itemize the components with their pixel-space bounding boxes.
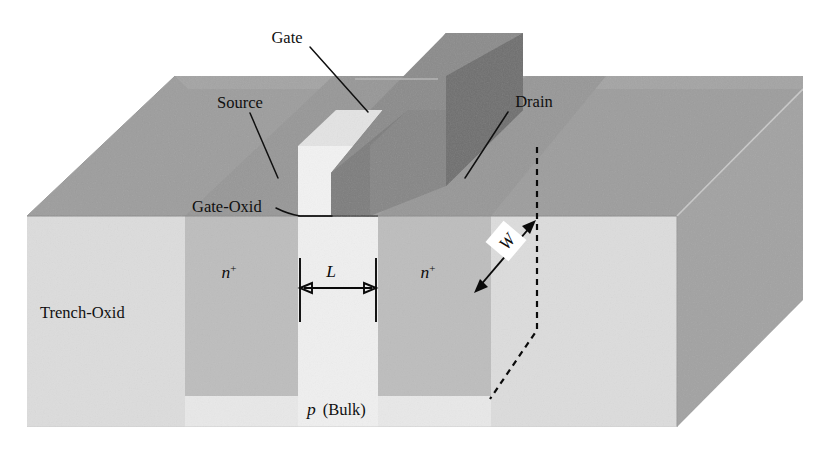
front-face-n-plus-source [185, 216, 298, 396]
bulk-text: (Bulk) [323, 400, 366, 419]
drain-label: Drain [515, 92, 553, 111]
mosfet-3d-diagram: L W Gate Source Drain Gate-Oxid T [0, 0, 830, 464]
source-label: Source [217, 93, 263, 112]
n-plus-drain-letter: n [421, 262, 430, 282]
mosfet-figure: L W Gate Source Drain Gate-Oxid T [0, 0, 830, 464]
device-body [27, 33, 803, 427]
n-plus-source-letter: n [222, 262, 231, 282]
length-label: L [325, 261, 336, 281]
bulk-symbol: p [305, 399, 316, 419]
front-face-n-plus-drain [378, 216, 491, 396]
n-plus-source-superscript: + [230, 262, 236, 274]
gate-label: Gate [271, 28, 302, 47]
trench-oxide-label: Trench-Oxid [40, 303, 125, 322]
front-face-channel-column-overlay [298, 216, 378, 427]
n-plus-drain-superscript: + [429, 262, 435, 274]
gate-oxide-label: Gate-Oxid [192, 197, 262, 216]
bulk-label: p(Bulk) [305, 399, 366, 419]
